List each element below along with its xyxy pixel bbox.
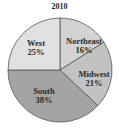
label-pct: 16% <box>62 46 106 55</box>
label-pct: 38% <box>24 96 64 105</box>
slice-label-west: West 25% <box>18 39 54 57</box>
slice-label-south: South 38% <box>24 87 64 105</box>
slice-label-northeast: Northeast 16% <box>62 37 106 55</box>
label-pct: 25% <box>18 48 54 57</box>
slice-label-midwest: Midwest 21% <box>74 70 114 88</box>
pie-chart <box>0 0 119 132</box>
label-pct: 21% <box>74 79 114 88</box>
